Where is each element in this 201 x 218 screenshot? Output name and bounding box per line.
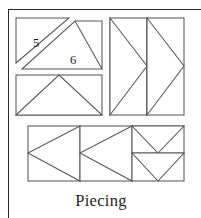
page-frame-top-rule (8, 9, 201, 10)
figure-caption: Piecing (8, 191, 194, 211)
page-frame-left-rule (8, 9, 9, 218)
unit-bottom-row (28, 126, 184, 181)
piece-label-5: 5 (33, 37, 39, 50)
piecing-diagram: 5 6 (12, 13, 187, 185)
unit-half-square-triangle-pair (16, 18, 102, 69)
page-canvas: 5 6 Piecing (0, 0, 201, 218)
unit-flying-geese-right-pair (110, 18, 184, 115)
piece-label-6: 6 (70, 54, 76, 67)
unit-flying-geese-up (16, 75, 102, 115)
